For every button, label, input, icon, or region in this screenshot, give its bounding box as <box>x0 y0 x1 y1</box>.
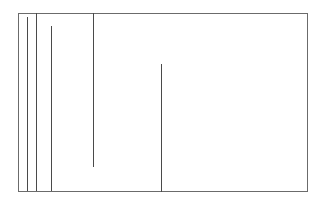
vertical-line-1 <box>27 17 28 191</box>
diagram-canvas <box>0 0 322 204</box>
vertical-line-2 <box>36 13 37 191</box>
outer-frame <box>18 13 308 192</box>
vertical-line-3 <box>51 26 52 191</box>
vertical-line-4 <box>93 13 94 167</box>
vertical-line-5 <box>161 64 162 192</box>
